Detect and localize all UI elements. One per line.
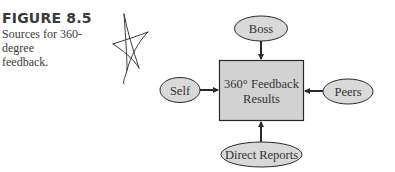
self-label: Self bbox=[170, 84, 191, 98]
source-direct-reports-node: Direct Reports bbox=[221, 142, 302, 167]
center-label-line-2: Results bbox=[243, 92, 280, 106]
star-doodle-icon bbox=[113, 14, 148, 84]
source-boss-node: Boss bbox=[235, 16, 288, 41]
source-peers-node: Peers bbox=[323, 79, 373, 104]
direct-reports-label: Direct Reports bbox=[225, 148, 298, 162]
center-results-box: 360° Feedback Results bbox=[220, 61, 304, 121]
feedback-diagram: 360° Feedback Results Boss Self Peers Di… bbox=[0, 0, 395, 172]
boss-label: Boss bbox=[249, 22, 273, 36]
peers-label: Peers bbox=[334, 85, 361, 99]
source-self-node: Self bbox=[160, 78, 200, 103]
center-label-line-1: 360° Feedback bbox=[224, 77, 300, 91]
